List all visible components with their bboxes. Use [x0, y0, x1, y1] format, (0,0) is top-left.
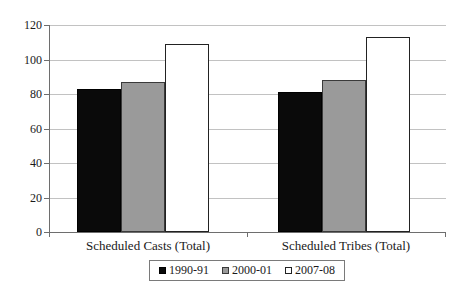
- legend-label-2007-08: 2007-08: [295, 263, 335, 278]
- legend-label-1990-91: 1990-91: [169, 263, 209, 278]
- x-tick-2: [445, 233, 446, 237]
- bar-chart: 020406080100120 Scheduled Casts (Total)S…: [0, 0, 468, 294]
- legend-swatch-1990-91: [159, 267, 166, 274]
- y-tick-label-120: 120: [12, 18, 42, 32]
- legend: 1990-912000-012007-08: [149, 260, 345, 281]
- y-tick-label-20: 20: [12, 191, 42, 205]
- y-tick-label-60: 60: [12, 122, 42, 136]
- plot-area: [49, 25, 446, 233]
- bar-1990-91-scheduled-casts-total: [77, 89, 121, 232]
- x-tick-1: [247, 233, 248, 237]
- bar-1990-91-scheduled-tribes-total: [278, 92, 322, 232]
- legend-item-1990-91: 1990-91: [159, 263, 209, 278]
- x-category-label-scheduled-tribes-total: Scheduled Tribes (Total): [247, 238, 445, 254]
- legend-swatch-2007-08: [285, 267, 292, 274]
- y-tick-label-80: 80: [12, 87, 42, 101]
- x-tick-0: [49, 233, 50, 237]
- legend-item-2000-01: 2000-01: [222, 263, 272, 278]
- bar-2007-08-scheduled-casts-total: [165, 44, 209, 232]
- bar-2000-01-scheduled-casts-total: [121, 82, 165, 232]
- y-tick-label-40: 40: [12, 156, 42, 170]
- y-tick-label-100: 100: [12, 53, 42, 67]
- bar-2000-01-scheduled-tribes-total: [322, 80, 366, 232]
- x-category-label-scheduled-casts-total: Scheduled Casts (Total): [49, 238, 247, 254]
- legend-swatch-2000-01: [222, 267, 229, 274]
- legend-label-2000-01: 2000-01: [232, 263, 272, 278]
- gridline-120: [50, 25, 446, 26]
- legend-item-2007-08: 2007-08: [285, 263, 335, 278]
- bar-2007-08-scheduled-tribes-total: [366, 37, 410, 232]
- y-tick-label-0: 0: [12, 225, 42, 239]
